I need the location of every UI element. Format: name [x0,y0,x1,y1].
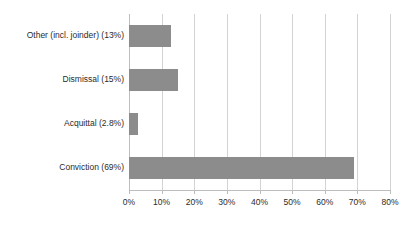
tick-mark [227,190,228,194]
bar-chart: Other (incl. joinder) (13%)Dismissal (15… [0,0,416,227]
x-axis-tick-label: 70% [349,196,366,208]
category-label: Conviction (69%) [0,162,124,173]
x-axis-tick-label: 40% [251,196,268,208]
bar [129,157,354,179]
x-axis-tick-labels: 0%10%20%30%40%50%60%70%80% [0,196,416,212]
x-axis-tick-label: 20% [186,196,203,208]
bar-band [129,102,390,146]
bar-band [129,146,390,190]
x-axis-tick-label: 10% [153,196,170,208]
gridline [390,14,391,190]
tick-mark [260,190,261,194]
tick-mark [357,190,358,194]
x-axis-tick-marks [129,190,391,194]
tick-mark [162,190,163,194]
bar-series [129,14,390,190]
x-axis-tick-label: 60% [316,196,333,208]
x-axis-tick-label: 80% [381,196,398,208]
tick-mark [129,190,130,194]
bar-band [129,58,390,102]
bar [129,69,178,91]
bar [129,25,171,47]
x-axis-tick-label: 0% [123,196,135,208]
tick-mark [390,190,391,194]
plot-area [129,14,390,190]
bar-band [129,14,390,58]
category-label: Other (incl. joinder) (13%) [0,30,124,41]
bar [129,113,138,135]
x-axis-tick-label: 30% [218,196,235,208]
tick-mark [325,190,326,194]
tick-mark [194,190,195,194]
category-label: Dismissal (15%) [0,74,124,85]
category-axis-labels: Other (incl. joinder) (13%)Dismissal (15… [0,14,124,190]
x-axis-tick-label: 50% [284,196,301,208]
category-label: Acquittal (2.8%) [0,118,124,129]
tick-mark [292,190,293,194]
